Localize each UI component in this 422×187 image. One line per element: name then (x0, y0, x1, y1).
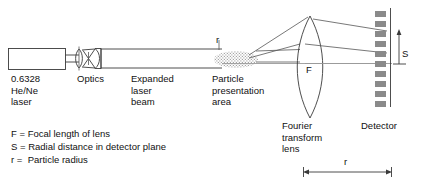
detector-segment-array (375, 11, 386, 107)
label-laser: 0.6328 He/Ne laser (11, 73, 40, 108)
label-fourier-lens: Fourier transform lens (282, 120, 322, 155)
optics-ray-upper-converge (82, 49, 95, 50)
focused-ray-mid (305, 44, 387, 53)
detector-segment (375, 51, 386, 57)
label-detector: Detector (361, 120, 397, 132)
detector-segment (375, 11, 386, 17)
diagram-canvas: 0.6328 He/Ne laser Optics Expanded laser… (0, 0, 422, 187)
optics-lens-large (95, 49, 101, 69)
label-optics: Optics (77, 73, 104, 85)
detector-segment (375, 41, 386, 47)
legend-line-radial-distance: S = Radial distance in detector plane (11, 141, 166, 154)
detector-segment (375, 81, 386, 87)
detector-segment (375, 101, 386, 107)
label-expanded-beam: Expanded laser beam (131, 73, 174, 108)
detector-segment (375, 61, 386, 67)
label-dimension-r: r (344, 156, 347, 168)
detector-segment (375, 31, 386, 37)
legend-line-focal-length: F = Focal length of lens (11, 128, 110, 141)
optics-ray-cross-a (83, 51, 95, 69)
detector-segment (375, 21, 386, 27)
label-particle-area: Particle presentation area (212, 73, 264, 108)
radial-distance-arrowhead (397, 29, 402, 35)
legend-line-particle-radius: r = Particle radius (11, 154, 88, 167)
optics-ray-lower-converge (82, 67, 95, 68)
label-focal-length-F: F (306, 64, 312, 76)
detector-segment (375, 71, 386, 77)
optics-ray-cross-b (83, 49, 95, 67)
detector-segment (375, 91, 386, 97)
label-particle-radius-r: r (216, 34, 219, 46)
label-radial-distance-S: S (402, 48, 408, 60)
laser-body-rect (9, 49, 66, 70)
